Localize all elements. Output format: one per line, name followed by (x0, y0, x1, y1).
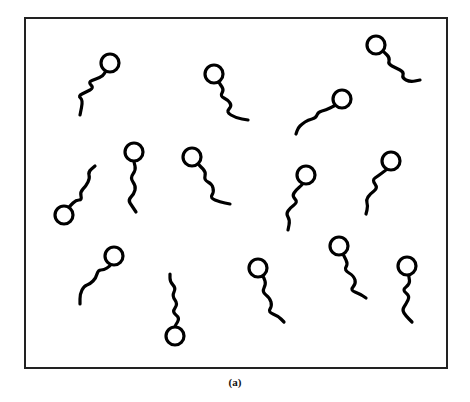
hydrophilic-head (333, 90, 351, 108)
amphiphile-molecule (125, 143, 143, 212)
amphiphile-molecule (80, 247, 123, 304)
hydrophilic-head (105, 247, 123, 265)
hydrophobic-tail (80, 71, 106, 115)
amphiphile-molecule (166, 274, 184, 345)
hydrophobic-tail (263, 276, 284, 322)
hydrophobic-tail (287, 183, 303, 230)
hydrophilic-head (183, 148, 201, 166)
amphiphile-molecule (330, 237, 366, 298)
hydrophobic-tail (219, 82, 248, 120)
hydrophilic-head (249, 259, 267, 277)
figure-frame (25, 18, 447, 368)
hydrophobic-tail (69, 166, 95, 208)
amphiphile-molecule (80, 54, 119, 115)
hydrophilic-head (166, 327, 184, 345)
amphiphile-molecule (366, 152, 400, 214)
hydrophilic-head (398, 257, 416, 275)
hydrophobic-tail (383, 51, 420, 81)
diagram-canvas (0, 0, 470, 402)
hydrophobic-tail (170, 274, 178, 327)
molecule-group (55, 36, 420, 345)
hydrophilic-head (205, 65, 223, 83)
amphiphile-molecule (55, 166, 95, 224)
amphiphile-molecule (296, 90, 351, 134)
amphiphile-molecule (205, 65, 248, 120)
hydrophilic-head (125, 143, 143, 161)
hydrophilic-head (55, 206, 73, 224)
hydrophobic-tail (403, 275, 412, 322)
hydrophobic-tail (296, 105, 335, 134)
hydrophilic-head (101, 54, 119, 72)
hydrophilic-head (367, 36, 385, 54)
hydrophilic-head (330, 237, 348, 255)
hydrophilic-head (297, 166, 315, 184)
hydrophobic-tail (343, 254, 366, 298)
amphiphile-molecule (287, 166, 315, 230)
hydrophilic-head (382, 152, 400, 170)
hydrophobic-tail (366, 169, 387, 214)
figure-caption: (a) (0, 376, 470, 388)
amphiphile-molecule (367, 36, 420, 81)
amphiphile-molecule (249, 259, 284, 322)
hydrophobic-tail (129, 161, 136, 212)
hydrophobic-tail (80, 264, 111, 304)
hydrophobic-tail (198, 164, 230, 204)
amphiphile-molecule (398, 257, 416, 322)
amphiphile-molecule (183, 148, 230, 204)
